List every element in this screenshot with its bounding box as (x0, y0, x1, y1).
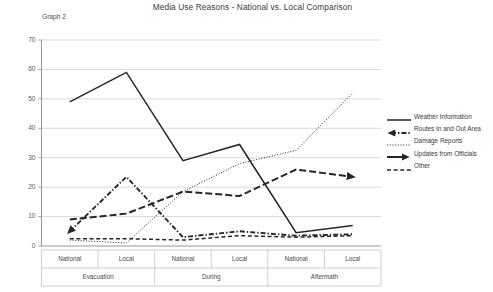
x-axis-category-label: National (155, 255, 212, 262)
x-axis-category-label: Local (324, 255, 381, 262)
y-axis-tick-label: 10 (20, 212, 36, 219)
legend-swatch-icon (386, 124, 412, 134)
y-axis-tick-label: 40 (20, 124, 36, 131)
series-line-routes-in-and-out-area (70, 177, 353, 237)
legend-swatch-icon (386, 111, 412, 121)
legend-item[interactable]: Routes In and Out Area (386, 122, 491, 134)
axes-group (39, 40, 42, 246)
legend-swatch-icon (386, 148, 412, 158)
x-axis-group-label: Aftermath (268, 273, 381, 280)
legend-swatch-icon (386, 136, 412, 146)
legend-item[interactable]: Updates from Officials (386, 147, 491, 159)
y-axis-tick-label: 30 (20, 154, 36, 161)
legend-swatch-icon (386, 161, 412, 171)
y-axis-tick-label: 50 (20, 95, 36, 102)
x-axis-group-label: Evacuation (42, 273, 155, 280)
x-axis-category-label: National (42, 255, 99, 262)
x-axis-category-label: Local (98, 255, 155, 262)
chart-container: Media Use Reasons - National vs. Local C… (0, 0, 493, 292)
series-line-weather-information (70, 72, 353, 232)
legend-item-label: Weather Information (412, 113, 472, 120)
series-line-damage-reports (70, 93, 353, 243)
y-axis-tick-label: 70 (20, 36, 36, 43)
series-line-updates-from-officials (70, 169, 353, 219)
legend-item[interactable]: Weather Information (386, 110, 491, 122)
x-axis-category-label: National (268, 255, 325, 262)
x-axis-group-label: During (155, 273, 268, 280)
legend-item-label: Damage Reports (412, 137, 462, 144)
x-axis-category-label: Local (211, 255, 268, 262)
legend-item[interactable]: Damage Reports (386, 135, 491, 147)
series-line-other (70, 236, 353, 240)
y-axis-tick-label: 60 (20, 65, 36, 72)
gridlines-group (42, 40, 382, 246)
legend-item-label: Routes In and Out Area (412, 125, 481, 132)
legend-item-label: Updates from Officials (412, 150, 477, 157)
legend-item-label: Other (412, 162, 430, 169)
legend-item[interactable]: Other (386, 160, 491, 172)
y-axis-tick-label: 0 (20, 242, 36, 249)
y-axis-tick-label: 20 (20, 183, 36, 190)
chart-legend: Weather InformationRoutes In and Out Are… (386, 110, 491, 172)
